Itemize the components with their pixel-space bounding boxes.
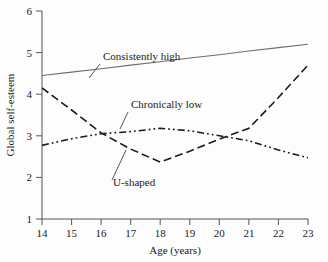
x-tick-label: 18 xyxy=(155,227,167,239)
x-tick-label: 20 xyxy=(214,227,226,239)
x-tick-label: 19 xyxy=(184,227,196,239)
annotation-u-shaped: U-shaped xyxy=(113,176,156,188)
self-esteem-trajectories-chart: 1 2 3 4 5 6 14 15 16 17 18 19 xyxy=(0,0,328,262)
x-tick-label: 17 xyxy=(125,227,137,239)
annotation-chronically-low: Chronically low xyxy=(131,98,202,110)
x-tick-label: 23 xyxy=(303,227,315,239)
y-tick-label: 2 xyxy=(27,171,33,183)
x-tick-label: 16 xyxy=(96,227,108,239)
y-tick-label: 4 xyxy=(27,88,33,100)
y-tick-label: 3 xyxy=(27,130,33,142)
x-tick-label: 22 xyxy=(273,227,284,239)
y-tick-label: 5 xyxy=(27,47,33,59)
x-axis-title: Age (years) xyxy=(149,244,201,257)
x-tick-label: 21 xyxy=(243,227,254,239)
chart-container: 1 2 3 4 5 6 14 15 16 17 18 19 xyxy=(0,0,328,262)
y-tick-label: 6 xyxy=(27,5,33,17)
x-tick-label: 14 xyxy=(37,227,49,239)
y-axis-title: Global self-esteem xyxy=(4,73,16,156)
annotation-consistently-high: Consistently high xyxy=(103,50,181,62)
y-tick-label: 1 xyxy=(27,213,33,225)
x-tick-label: 15 xyxy=(66,227,78,239)
